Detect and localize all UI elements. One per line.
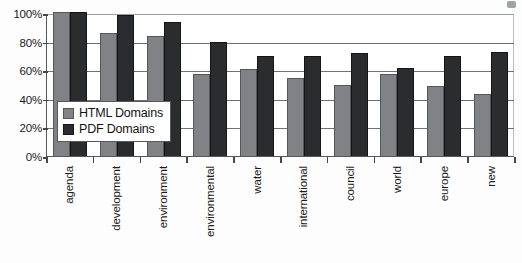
x-axis-ticks bbox=[46, 157, 514, 163]
x-axis-category-label: water bbox=[251, 166, 263, 194]
y-axis-tick-label: 0% bbox=[0, 151, 42, 163]
y-axis-tick-label: 100% bbox=[0, 8, 42, 20]
y-axis-tick-label: 60% bbox=[0, 65, 42, 77]
legend-label-html: HTML Domains bbox=[79, 106, 163, 120]
legend-label-pdf: PDF Domains bbox=[79, 122, 155, 136]
x-axis-category-label: new bbox=[485, 166, 497, 187]
x-axis-category-label: development bbox=[110, 166, 122, 231]
bar-group bbox=[374, 14, 421, 156]
scan-artifact bbox=[507, 1, 516, 8]
legend-item-pdf-domains: PDF Domains bbox=[63, 121, 163, 137]
x-axis-tick-mark bbox=[186, 157, 188, 163]
x-axis-label-cell: new bbox=[467, 164, 514, 263]
x-axis-tick-mark bbox=[46, 157, 48, 163]
x-axis-category-label: environment bbox=[157, 166, 169, 228]
x-axis-tick-mark bbox=[93, 157, 95, 163]
legend-swatch-pdf-icon bbox=[63, 124, 74, 135]
y-axis-tick-label: 40% bbox=[0, 94, 42, 106]
x-axis-tick-mark bbox=[140, 157, 142, 163]
x-axis-tick-mark bbox=[374, 157, 376, 163]
bar-html-domains bbox=[287, 78, 304, 156]
x-axis-label-cell: water bbox=[233, 164, 280, 263]
x-axis-tick-mark bbox=[467, 157, 469, 163]
x-axis-tick-mark bbox=[420, 157, 422, 163]
x-axis-tick-mark bbox=[233, 157, 235, 163]
x-axis-category-label: agenda bbox=[63, 166, 75, 204]
bar-pdf-domains bbox=[304, 56, 321, 156]
bar-pdf-domains bbox=[351, 53, 368, 156]
bar-group bbox=[281, 14, 328, 156]
x-axis-category-label: environmental bbox=[204, 166, 216, 237]
bar-html-domains bbox=[334, 85, 351, 156]
bar-pdf-domains bbox=[210, 42, 227, 156]
bar-group bbox=[467, 14, 514, 156]
bar-pdf-domains bbox=[397, 68, 414, 156]
bar-html-domains bbox=[427, 86, 444, 156]
y-axis-tick-label: 80% bbox=[0, 37, 42, 49]
legend-item-html-domains: HTML Domains bbox=[63, 105, 163, 121]
x-axis-tick-mark bbox=[514, 157, 516, 163]
bar-pdf-domains bbox=[444, 56, 461, 156]
bar-group bbox=[421, 14, 468, 156]
legend-swatch-html-icon bbox=[63, 108, 74, 119]
x-axis-label-cell: environmental bbox=[186, 164, 233, 263]
x-axis-label-cell: europe bbox=[420, 164, 467, 263]
x-axis-label-cell: council bbox=[327, 164, 374, 263]
x-axis-tick-mark bbox=[280, 157, 282, 163]
x-axis-tick-mark bbox=[327, 157, 329, 163]
bar-group bbox=[234, 14, 281, 156]
bar-pdf-domains bbox=[257, 56, 274, 156]
bar-html-domains bbox=[240, 69, 257, 156]
x-axis-label-cell: agenda bbox=[46, 164, 93, 263]
x-axis-label-cell: environment bbox=[140, 164, 187, 263]
x-axis-label-cell: world bbox=[374, 164, 421, 263]
x-axis-category-label: council bbox=[344, 166, 356, 201]
bar-html-domains bbox=[193, 74, 210, 157]
x-axis-category-label: europe bbox=[438, 166, 450, 201]
bar-html-domains bbox=[474, 94, 491, 156]
bar-pdf-domains bbox=[491, 52, 508, 156]
bar-group bbox=[187, 14, 234, 156]
y-axis-tick-label: 20% bbox=[0, 122, 42, 134]
x-axis-labels: agendadevelopmentenvironmentenvironmenta… bbox=[46, 164, 514, 263]
x-axis-label-cell: international bbox=[280, 164, 327, 263]
chart-legend: HTML Domains PDF Domains bbox=[57, 101, 171, 142]
x-axis-label-cell: development bbox=[93, 164, 140, 263]
bar-group bbox=[327, 14, 374, 156]
x-axis-category-label: international bbox=[297, 166, 309, 227]
bar-html-domains bbox=[380, 74, 397, 157]
x-axis-category-label: world bbox=[391, 166, 403, 193]
bar-chart: 100%80%60%40%20%0% agendadevelopmentenvi… bbox=[0, 0, 522, 263]
